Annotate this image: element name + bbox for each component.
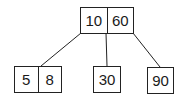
edge-root-to-right: [133, 33, 160, 67]
leaf-node-left: 5 8: [14, 66, 62, 93]
leaf-left-key-1: 8: [38, 67, 62, 92]
edge-root-to-left: [41, 33, 81, 66]
root-key-1: 60: [107, 8, 134, 33]
leaf-left-key-0: 5: [15, 67, 38, 92]
root-key-0: 10: [81, 8, 107, 33]
leaf-node-right: 90: [147, 67, 174, 94]
leaf-middle-key-0: 30: [94, 67, 120, 92]
root-node: 10 60: [80, 7, 134, 34]
edge-root-to-middle: [106, 33, 107, 66]
leaf-right-key-0: 90: [148, 68, 173, 93]
leaf-node-middle: 30: [93, 66, 121, 93]
